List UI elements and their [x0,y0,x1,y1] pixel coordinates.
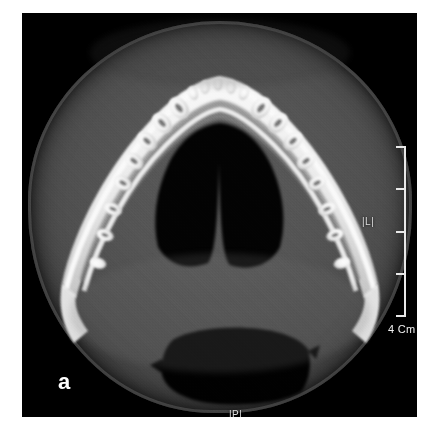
orientation-marker-posterior: |P| [229,409,242,417]
scale-bar-tick [396,315,406,317]
anatomy-svg [22,13,417,417]
scale-bar-tick [396,231,406,233]
scale-bar-tick [396,188,406,190]
scale-bar-label: 4 Cm [388,323,415,335]
ct-scan-panel: 4 Cm |L| |P| a [22,13,417,417]
figure-container: 4 Cm |L| |P| a [0,0,439,444]
scale-bar-tick [396,146,406,148]
scale-bar-tick [396,273,406,275]
panel-label: a [58,371,70,393]
orientation-marker-left: |L| [362,216,374,227]
